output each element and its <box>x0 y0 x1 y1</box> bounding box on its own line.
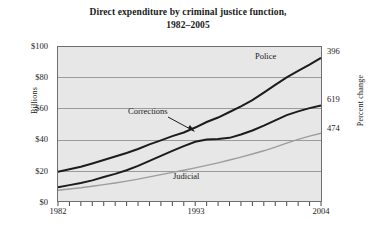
series-line-police <box>58 58 321 172</box>
series-line-corrections <box>58 106 321 188</box>
x-axis-ticks <box>58 202 321 206</box>
corrections-callout-arrow <box>168 117 195 132</box>
chart-canvas <box>0 0 376 233</box>
chart-figure: Direct expenditure by criminal justice f… <box>0 0 376 233</box>
